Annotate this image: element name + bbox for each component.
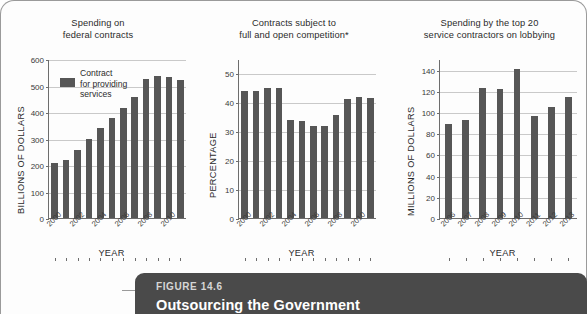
- y-axis-title-federal-contracts: BILLIONS OF DOLLARS: [16, 106, 26, 214]
- chart-title-line2: full and open competition*: [196, 30, 392, 42]
- y-axis-tick-label: 140: [422, 66, 435, 75]
- x-axis-tick: [302, 258, 303, 261]
- x-axis-tick: [517, 258, 518, 261]
- bar: [120, 108, 127, 218]
- figure-caption-box: FIGURE 14.6 Outsourcing the Government: [135, 273, 587, 314]
- bar: [514, 69, 521, 218]
- chart-title-federal-contracts: Spending on federal contracts: [0, 18, 196, 41]
- x-axis-tick: [313, 258, 314, 261]
- bar-series: [239, 60, 376, 218]
- x-axis-title-lobbying: YEAR: [425, 248, 580, 258]
- bar: [356, 97, 363, 218]
- bar: [287, 120, 294, 218]
- x-axis-tick: [500, 258, 501, 261]
- x-axis-tick: [534, 258, 535, 261]
- bar: [177, 80, 184, 218]
- chart-title-line1: Contracts subject to: [196, 18, 392, 30]
- x-axis-tick: [370, 258, 371, 261]
- y-axis-tick-label: 10: [225, 186, 234, 195]
- bar: [63, 160, 70, 218]
- x-axis-tick: [359, 258, 360, 261]
- y-axis-tick-label: 200: [31, 162, 44, 171]
- x-axis-title-open-competition: YEAR: [224, 248, 379, 258]
- chart-title-open-competition: Contracts subject to full and open compe…: [196, 18, 392, 41]
- bar: [97, 128, 104, 218]
- bar: [264, 88, 271, 218]
- y-axis-tick-label: 300: [31, 135, 44, 144]
- y-axis-tick-label: 0: [40, 215, 44, 224]
- bar: [548, 107, 555, 218]
- legend-label: Contract for providing services: [80, 68, 127, 100]
- bar: [241, 91, 248, 218]
- y-axis-tick-label: 100: [31, 188, 44, 197]
- x-axis-tick: [146, 258, 147, 261]
- legend-label-line3: services: [80, 89, 127, 100]
- x-axis-tick: [135, 258, 136, 261]
- y-axis-tick-label: 600: [31, 56, 44, 65]
- x-axis-tick: [66, 258, 67, 261]
- x-axis-tick: [256, 258, 257, 261]
- chart-panel-federal-contracts: Spending on federal contracts 0100200300…: [0, 0, 196, 265]
- y-axis-tick-label: 80: [426, 130, 435, 139]
- legend-swatch-icon: [60, 78, 75, 87]
- x-axis-tick: [466, 258, 467, 261]
- x-axis-tick: [551, 258, 552, 261]
- y-axis-title-open-competition: PERCENTAGE: [208, 132, 218, 198]
- bar: [565, 97, 572, 218]
- x-axis-tick: [290, 258, 291, 261]
- y-axis-tick-label: 500: [31, 82, 44, 91]
- y-axis-tick-label: 30: [225, 128, 234, 137]
- bar: [531, 116, 538, 218]
- y-axis-tick-label: 20: [426, 193, 435, 202]
- figure-title: Outsourcing the Government: [156, 297, 360, 313]
- plot-area-open-competition: 01020304050200020022004200620082010: [238, 60, 376, 219]
- bar: [276, 88, 283, 218]
- y-axis-tick-label: 50: [225, 70, 234, 79]
- x-axis-tick: [158, 258, 159, 261]
- bar: [310, 126, 317, 219]
- bar: [367, 98, 374, 218]
- legend-label-line2: for providing: [80, 79, 127, 90]
- x-axis-tick: [123, 258, 124, 261]
- chart-panel-open-competition: Contracts subject to full and open compe…: [196, 0, 392, 265]
- bar: [462, 120, 469, 218]
- bar: [154, 76, 161, 218]
- x-axis-tick: [180, 258, 181, 261]
- x-axis-tick: [100, 258, 101, 261]
- x-axis-tick: [169, 258, 170, 261]
- bar: [333, 115, 340, 218]
- x-axis-tick: [336, 258, 337, 261]
- bar: [321, 126, 328, 219]
- y-axis-tick-label: 20: [225, 157, 234, 166]
- chart-panel-lobbying: Spending by the top 20 service contracto…: [392, 0, 587, 265]
- y-axis-tick-label: 40: [225, 99, 234, 108]
- x-axis-tick: [325, 258, 326, 261]
- x-axis-tick: [55, 258, 56, 261]
- chart-title-line1: Spending by the top 20: [392, 18, 587, 30]
- legend-label-line1: Contract: [80, 68, 127, 79]
- x-axis-tick: [279, 258, 280, 261]
- y-axis-title-lobbying: MILLIONS OF DOLLARS: [406, 107, 416, 216]
- bar: [253, 91, 260, 218]
- y-axis-tick-label: 100: [422, 109, 435, 118]
- bar: [109, 118, 116, 218]
- chart-title-lobbying: Spending by the top 20 service contracto…: [392, 18, 587, 41]
- bar: [479, 88, 486, 218]
- chart-title-line1: Spending on: [0, 18, 196, 30]
- x-axis-tick: [268, 258, 269, 261]
- x-axis-tick: [89, 258, 90, 261]
- x-axis-tick: [483, 258, 484, 261]
- bar: [445, 124, 452, 218]
- bar: [497, 89, 504, 218]
- y-axis-tick-label: 120: [422, 87, 435, 96]
- x-axis-tick: [78, 258, 79, 261]
- y-axis-tick-label: 400: [31, 109, 44, 118]
- legend-contract-services: Contract for providing services: [60, 68, 127, 100]
- figure-number-label: FIGURE 14.6: [156, 281, 223, 292]
- x-axis-tick: [245, 258, 246, 261]
- chart-panel-group: Spending on federal contracts 0100200300…: [0, 0, 587, 265]
- bar-series: [440, 60, 577, 218]
- x-axis-title-federal-contracts: YEAR: [34, 248, 189, 258]
- x-axis-tick: [112, 258, 113, 261]
- bar: [74, 150, 81, 218]
